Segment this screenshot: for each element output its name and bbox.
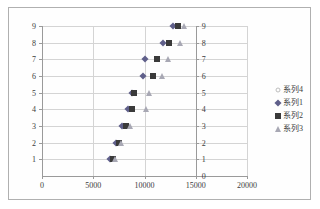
x-axis-tick-label: 20000 xyxy=(237,181,257,190)
x-axis-tick-label: 0 xyxy=(40,181,44,190)
x-axis-tick xyxy=(247,176,248,179)
y-axis-right-tick-label: 3 xyxy=(202,122,206,131)
y-axis-left xyxy=(42,26,43,176)
x-axis-tick-label: 5000 xyxy=(85,181,101,190)
plot-area: 050001000015000200001234567890123456789 xyxy=(42,26,247,176)
legend-marker-square-icon xyxy=(272,110,283,121)
legend-square-icon xyxy=(275,113,281,119)
legend-circle-icon xyxy=(275,87,280,92)
y-axis-left-tick-label: 9 xyxy=(20,22,36,31)
data-point-diamond xyxy=(140,72,147,79)
y-axis-left-tick-label: 6 xyxy=(20,72,36,81)
data-point-triangle xyxy=(118,140,124,146)
data-point-triangle xyxy=(127,123,133,129)
y-axis-left-tick xyxy=(39,76,42,77)
y-axis-left-tick-label: 5 xyxy=(20,88,36,97)
y-axis-left-tick-label: 7 xyxy=(20,55,36,64)
gridline-vertical xyxy=(93,26,94,176)
legend-diamond-icon xyxy=(274,99,281,106)
x-axis-tick xyxy=(42,176,43,179)
y-axis-left-tick xyxy=(39,26,42,27)
y-axis-right-tick xyxy=(196,176,199,177)
chart-legend: 系列4系列1系列2系列3 xyxy=(271,81,315,137)
legend-marker-diamond-icon xyxy=(272,97,283,108)
data-point-square xyxy=(154,56,160,62)
y-axis-left-tick xyxy=(39,159,42,160)
y-axis-left-tick xyxy=(39,126,42,127)
data-point-triangle xyxy=(146,90,152,96)
y-axis-right xyxy=(196,26,197,176)
gridline-vertical xyxy=(145,26,146,176)
legend-marker-triangle-icon xyxy=(272,123,283,134)
x-axis-tick xyxy=(93,176,94,179)
data-point-triangle xyxy=(159,73,165,79)
y-axis-right-tick-label: 8 xyxy=(202,38,206,47)
y-axis-right-tick-label: 9 xyxy=(202,22,206,31)
y-axis-right-tick xyxy=(196,126,199,127)
y-axis-right-tick xyxy=(196,59,199,60)
y-axis-right-tick xyxy=(196,43,199,44)
legend-item-系列2: 系列2 xyxy=(272,109,314,122)
data-point-square xyxy=(175,23,181,29)
legend-label: 系列2 xyxy=(283,111,303,120)
data-point-triangle xyxy=(165,56,171,62)
y-axis-right-tick-label: 6 xyxy=(202,72,206,81)
legend-label: 系列1 xyxy=(283,98,303,107)
y-axis-right-tick-label: 5 xyxy=(202,88,206,97)
data-point-square xyxy=(131,90,137,96)
legend-marker-circle-icon xyxy=(272,84,283,95)
y-axis-right-tick xyxy=(196,26,199,27)
data-point-square xyxy=(150,73,156,79)
data-point-triangle xyxy=(181,23,187,29)
y-axis-left-tick-label: 4 xyxy=(20,105,36,114)
x-axis-tick xyxy=(145,176,146,179)
data-point-triangle xyxy=(143,106,149,112)
y-axis-right-tick xyxy=(196,159,199,160)
y-axis-left-tick xyxy=(39,93,42,94)
y-axis-left-tick-label: 3 xyxy=(20,122,36,131)
y-axis-right-tick-label: 1 xyxy=(202,155,206,164)
legend-item-系列4: 系列4 xyxy=(272,83,314,96)
y-axis-left-tick-label: 8 xyxy=(20,38,36,47)
y-axis-right-tick xyxy=(196,143,199,144)
y-axis-left-tick-label: 1 xyxy=(20,155,36,164)
y-axis-left-tick-label: 2 xyxy=(20,138,36,147)
y-axis-right-tick-label: 2 xyxy=(202,138,206,147)
y-axis-right-tick xyxy=(196,76,199,77)
data-point-diamond xyxy=(141,56,148,63)
y-axis-right-tick-label: 0 xyxy=(202,172,206,181)
x-axis-tick-label: 15000 xyxy=(186,181,206,190)
y-axis-left-tick xyxy=(39,59,42,60)
y-axis-left-tick xyxy=(39,43,42,44)
data-point-square xyxy=(166,40,172,46)
y-axis-right-tick-label: 7 xyxy=(202,55,206,64)
y-axis-right-tick xyxy=(196,109,199,110)
y-axis-right-tick xyxy=(196,93,199,94)
data-point-triangle xyxy=(177,40,183,46)
data-point-square xyxy=(129,106,135,112)
legend-item-系列1: 系列1 xyxy=(272,96,314,109)
x-axis-tick-label: 10000 xyxy=(135,181,155,190)
chart-frame: 050001000015000200001234567890123456789 … xyxy=(8,7,311,200)
legend-triangle-icon xyxy=(275,126,281,132)
data-point-triangle xyxy=(112,156,118,162)
y-axis-left-tick xyxy=(39,143,42,144)
legend-label: 系列4 xyxy=(283,85,303,94)
gridline-vertical xyxy=(247,26,248,176)
y-axis-left-tick xyxy=(39,109,42,110)
legend-label: 系列3 xyxy=(283,124,303,133)
y-axis-right-tick-label: 4 xyxy=(202,105,206,114)
legend-item-系列3: 系列3 xyxy=(272,122,314,135)
